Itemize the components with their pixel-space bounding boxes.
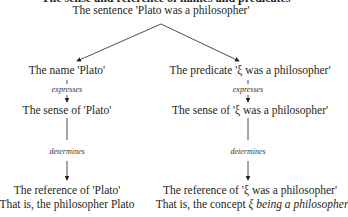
gloss-concept: ξ being a philosopher: [249, 198, 348, 210]
right-predicate-node: The predicate 'ξ was a philosopher': [170, 64, 331, 77]
right-determines-label: determines: [230, 147, 265, 156]
left-reference-gloss: That is, the philosopher Plato: [0, 198, 135, 211]
arrow-root-to-name: [77, 24, 161, 61]
right-expresses-label: expresses: [233, 85, 263, 94]
arrow-root-to-predicate: [161, 24, 239, 61]
root-sentence: The sentence 'Plato was a philosopher': [73, 4, 250, 17]
right-sense-node: The sense of 'ξ was a philosopher': [172, 104, 328, 117]
left-sense-node: The sense of 'Plato': [23, 104, 112, 117]
right-reference-node: The reference of 'ξ was a philosopher': [163, 184, 337, 197]
gloss-prefix: That is, the concept: [156, 198, 249, 210]
left-name-node: The name 'Plato': [29, 64, 105, 77]
left-reference-node: The reference of 'Plato': [14, 184, 121, 197]
right-reference-gloss: That is, the concept ξ being a philosoph…: [156, 198, 348, 211]
left-expresses-label: expresses: [52, 85, 82, 94]
left-determines-label: determines: [49, 147, 84, 156]
